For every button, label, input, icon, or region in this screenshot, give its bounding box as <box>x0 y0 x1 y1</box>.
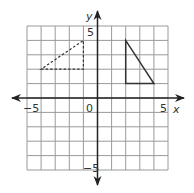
coordinate-plane: y x 5 −5 0 5 −5 <box>0 0 194 193</box>
x-axis-label: x <box>172 103 180 116</box>
y-min-tick-label: −5 <box>83 162 99 175</box>
x-min-tick-label: −5 <box>23 102 39 115</box>
origin-label: 0 <box>86 102 93 115</box>
x-max-tick-label: 5 <box>160 102 167 115</box>
y-axis-label: y <box>85 10 93 23</box>
axes <box>11 10 185 186</box>
y-max-tick-label: 5 <box>87 26 94 39</box>
